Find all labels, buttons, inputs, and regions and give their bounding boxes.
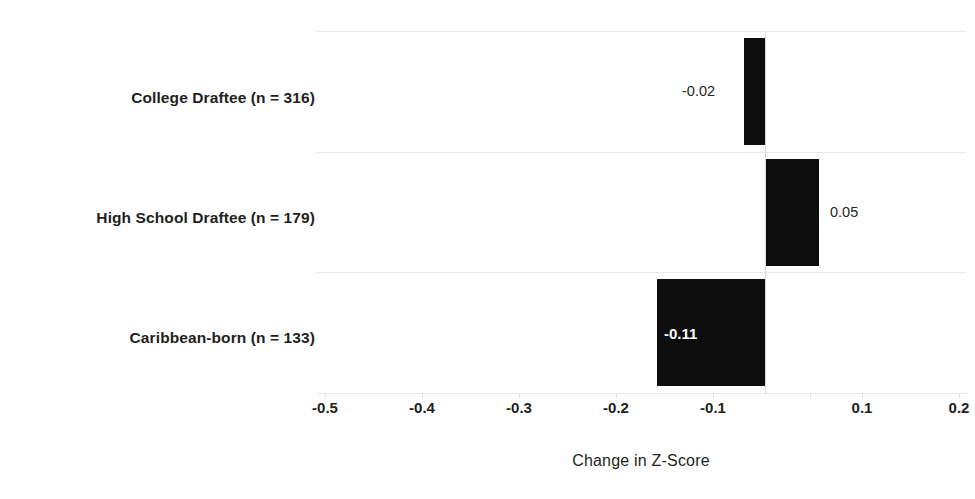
gridline-2 — [316, 272, 966, 273]
chart-figure: College Draftee (n = 316) High School Dr… — [0, 0, 975, 499]
x-tick-label--0.2: -0.2 — [603, 399, 629, 416]
category-label-college-draftee: College Draftee (n = 316) — [0, 89, 315, 107]
bar-college-draftee[interactable] — [744, 38, 765, 145]
bar-high-school-draftee[interactable] — [766, 159, 819, 266]
value-label-high-school-draftee: 0.05 — [830, 204, 858, 220]
gridline-1 — [316, 152, 966, 153]
value-label-college-draftee: -0.02 — [682, 83, 715, 99]
x-tick-label--0.3: -0.3 — [506, 399, 532, 416]
x-tick-label-0.1: 0.1 — [852, 399, 873, 416]
x-tick-label--0.4: -0.4 — [409, 399, 435, 416]
gridline-baseline — [316, 393, 966, 394]
category-label-caribbean-born: Caribbean-born (n = 133) — [0, 329, 315, 347]
x-axis-title: Change in Z-Score — [316, 452, 966, 470]
gridline-top — [316, 31, 966, 32]
plot-area: -0.02 0.05 -0.11 — [316, 31, 966, 394]
x-tick-label--0.5: -0.5 — [312, 399, 338, 416]
x-axis-tick-labels: -0.5 -0.4 -0.3 -0.2 -0.1 0.1 0.2 — [316, 399, 966, 425]
x-tick-label--0.1: -0.1 — [700, 399, 726, 416]
x-tick-label-0.2: 0.2 — [949, 399, 970, 416]
category-label-high-school-draftee: High School Draftee (n = 179) — [0, 209, 315, 227]
value-label-caribbean-born: -0.11 — [664, 325, 697, 342]
